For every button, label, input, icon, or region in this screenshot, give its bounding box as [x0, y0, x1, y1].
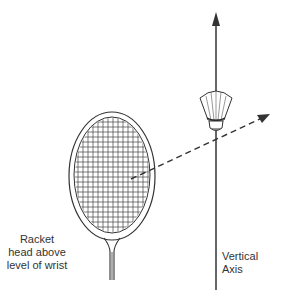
racket-label-line-2: head above — [0, 246, 74, 259]
axis-label-line-1: Vertical — [222, 250, 258, 263]
badminton-racket — [69, 110, 155, 280]
axis-label-line-2: Axis — [222, 263, 258, 276]
racket-label: Racket head above level of wrist — [0, 233, 74, 272]
racket-label-line-3: level of wrist — [0, 259, 74, 272]
racket-label-line-1: Racket — [0, 233, 74, 246]
dashed-trajectory-arrow — [131, 114, 270, 179]
shuttlecock — [200, 91, 232, 131]
vertical-axis-label: Vertical Axis — [222, 250, 258, 276]
vertical-axis-arrow — [212, 12, 220, 290]
